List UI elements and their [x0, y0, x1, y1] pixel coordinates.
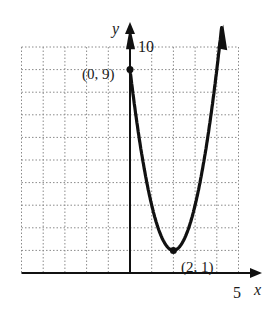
- graph-figure: y 10 (0, 9) (2, 1) 5 x: [0, 0, 269, 318]
- x-axis-arrow-icon: [250, 268, 262, 278]
- x-axis-label: x: [253, 281, 261, 298]
- parabola-curve: [130, 28, 222, 251]
- point-marker: [170, 247, 177, 254]
- y-axis-label: y: [110, 20, 120, 38]
- y-tick-label-10: 10: [138, 38, 154, 55]
- point-label-2-1: (2, 1): [181, 259, 214, 276]
- point-label-0-9: (0, 9): [82, 66, 115, 83]
- point-marker: [127, 66, 134, 73]
- x-tick-label-5: 5: [233, 284, 241, 301]
